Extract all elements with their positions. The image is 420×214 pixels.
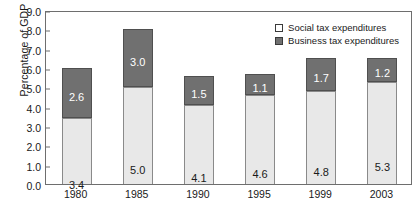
bar-segment-business: 1.7 bbox=[306, 58, 336, 91]
bar-value-label: 1.7 bbox=[314, 73, 329, 84]
bar-segment-business: 2.6 bbox=[62, 68, 92, 118]
bar-value-label: 4.8 bbox=[314, 167, 329, 178]
y-tick-label: 3.0 bbox=[26, 122, 46, 134]
bar-segment-social: 4.1 bbox=[184, 105, 214, 184]
x-tick-label: 1995 bbox=[247, 188, 270, 200]
y-tick-label: 0.0 bbox=[26, 180, 46, 192]
chart-legend: Social tax expenditures Business tax exp… bbox=[275, 22, 399, 46]
stacked-bar-chart: Percentage of GDP 0.01.02.03.04.05.06.07… bbox=[0, 0, 420, 214]
bar-segment-business: 1.5 bbox=[184, 76, 214, 105]
bar-column: 1.74.8 bbox=[306, 58, 336, 184]
y-tick-label: 5.0 bbox=[26, 83, 46, 95]
bar-value-label: 4.1 bbox=[191, 173, 206, 184]
x-tick-label: 1999 bbox=[309, 188, 332, 200]
bar-column: 2.63.4 bbox=[62, 68, 92, 184]
bar-value-label: 2.6 bbox=[69, 92, 84, 103]
bar-column: 1.54.1 bbox=[184, 76, 214, 184]
legend-label-social: Social tax expenditures bbox=[288, 22, 386, 33]
bar-segment-social: 4.6 bbox=[245, 95, 275, 184]
legend-label-business: Business tax expenditures bbox=[288, 35, 399, 46]
legend-item-social: Social tax expenditures bbox=[275, 22, 399, 33]
y-tick-label: 7.0 bbox=[26, 45, 46, 57]
legend-swatch-business-icon bbox=[275, 37, 283, 45]
y-tick-label: 9.0 bbox=[26, 6, 46, 18]
bar-column: 1.14.6 bbox=[245, 74, 275, 184]
bar-segment-social: 5.3 bbox=[367, 82, 397, 184]
bar-segment-social: 5.0 bbox=[123, 87, 153, 184]
x-tick-label: 1985 bbox=[125, 188, 148, 200]
y-tick-label: 1.0 bbox=[26, 161, 46, 173]
bar-value-label: 5.0 bbox=[130, 165, 145, 176]
bar-value-label: 1.5 bbox=[191, 89, 206, 100]
bar-column: 1.25.3 bbox=[367, 58, 397, 184]
bar-segment-social: 4.8 bbox=[306, 91, 336, 184]
legend-swatch-social-icon bbox=[275, 24, 283, 32]
x-tick-label: 1990 bbox=[186, 188, 209, 200]
bar-segment-business: 3.0 bbox=[123, 29, 153, 87]
bar-segment-social: 3.4 bbox=[62, 118, 92, 184]
x-tick-label: 1980 bbox=[64, 188, 87, 200]
x-tick-label: 2003 bbox=[370, 188, 393, 200]
legend-item-business: Business tax expenditures bbox=[275, 35, 399, 46]
y-tick-label: 6.0 bbox=[26, 64, 46, 76]
plot-area: 0.01.02.03.04.05.06.07.08.09.0 2.63.43.0… bbox=[45, 11, 412, 185]
bar-segment-business: 1.2 bbox=[367, 58, 397, 81]
bar-segment-business: 1.1 bbox=[245, 74, 275, 95]
bar-value-label: 4.6 bbox=[252, 169, 267, 180]
bar-value-label: 1.2 bbox=[375, 68, 390, 79]
bar-value-label: 1.1 bbox=[252, 83, 267, 94]
bar-value-label: 3.0 bbox=[130, 57, 145, 68]
bar-column: 3.05.0 bbox=[123, 29, 153, 184]
bar-value-label: 5.3 bbox=[375, 162, 390, 173]
y-tick-label: 2.0 bbox=[26, 141, 46, 153]
y-tick-label: 4.0 bbox=[26, 103, 46, 115]
y-tick-label: 8.0 bbox=[26, 25, 46, 37]
